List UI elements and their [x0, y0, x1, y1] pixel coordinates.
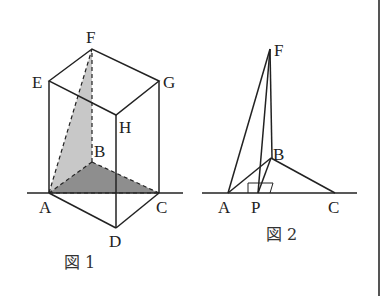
label-A2: A — [218, 198, 231, 217]
label-D1: D — [109, 232, 121, 251]
label-F1: F — [86, 28, 95, 47]
geometry-figures: F E G H B A C D 図 1 F B A P C 図 2 — [0, 0, 381, 296]
figure-1-labels: F E G H B A C D 図 1 — [32, 28, 175, 272]
label-H1: H — [119, 118, 131, 137]
label-E1: E — [32, 73, 42, 92]
frame-border-right — [378, 0, 380, 296]
segment-FB — [270, 49, 272, 158]
caption-figure-1: 図 1 — [64, 253, 95, 272]
label-G1: G — [163, 73, 175, 92]
label-C1: C — [156, 198, 167, 217]
figure-2-labels: F B A P C 図 2 — [218, 41, 339, 244]
label-C2: C — [328, 198, 339, 217]
label-B1: B — [94, 142, 105, 161]
label-F2: F — [274, 41, 283, 60]
label-A1: A — [39, 198, 52, 217]
label-P2: P — [251, 198, 260, 217]
top-face — [49, 49, 159, 115]
caption-figure-2: 図 2 — [266, 225, 297, 244]
figure-2 — [202, 49, 357, 193]
edge-AD — [49, 193, 116, 228]
label-B2: B — [273, 145, 284, 164]
edge-DC — [116, 193, 159, 228]
